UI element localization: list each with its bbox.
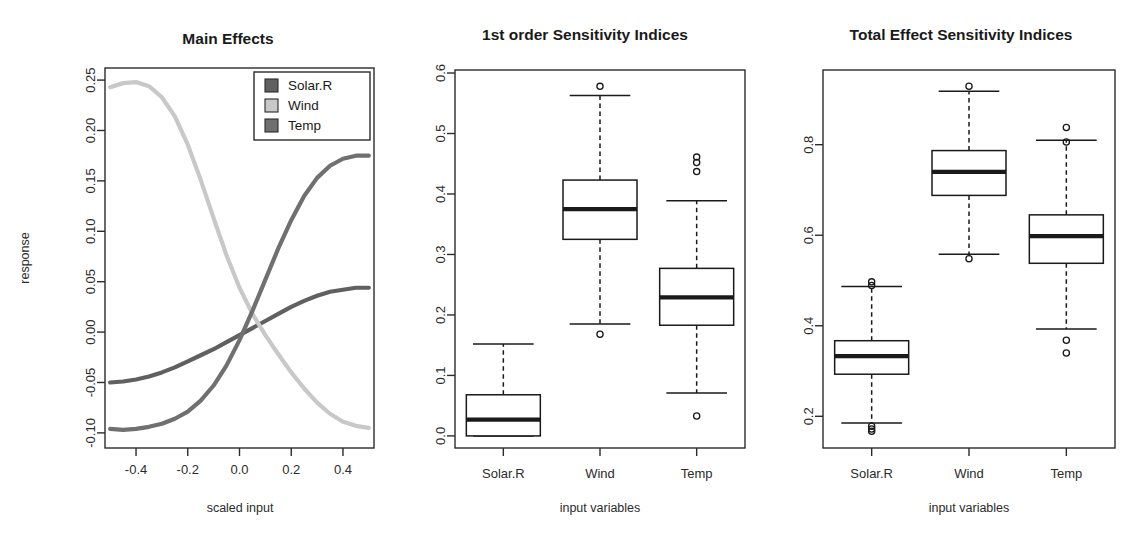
category-label: Temp bbox=[681, 466, 713, 481]
boxplot-wind bbox=[563, 83, 637, 337]
y-tick-label: 0.05 bbox=[84, 269, 99, 294]
outlier-point bbox=[694, 169, 700, 175]
y-tick-label: 0.00 bbox=[84, 319, 99, 344]
main-effects-plot: Main Effects -0.10-0.050.000.050.100.150… bbox=[0, 0, 390, 555]
y-tick-label: -0.10 bbox=[84, 418, 99, 448]
box-iqr bbox=[466, 395, 540, 436]
y-tick-label: 0.20 bbox=[84, 118, 99, 143]
category-labels: Solar.RWindTemp bbox=[850, 466, 1082, 481]
y-tick-label: 0.10 bbox=[84, 219, 99, 244]
category-label: Temp bbox=[1050, 466, 1082, 481]
boxplot-solar-r bbox=[835, 279, 909, 435]
legend-label-temp: Temp bbox=[288, 118, 321, 133]
category-label: Wind bbox=[954, 466, 984, 481]
panel-title: Main Effects bbox=[182, 30, 273, 47]
y-tick-label: 0.4 bbox=[802, 317, 817, 335]
legend-label-solar-r: Solar.R bbox=[288, 78, 333, 93]
panel-first-order-sensitivity: 1st order Sensitivity Indices 0.00.10.20… bbox=[390, 0, 761, 555]
legend-swatch-solar-r bbox=[265, 79, 278, 92]
outlier-point bbox=[1063, 350, 1069, 356]
total-effect-plot: Total Effect Sensitivity Indices 0.20.40… bbox=[761, 0, 1132, 555]
outlier-point bbox=[597, 83, 603, 89]
x-tick-label: 0.4 bbox=[334, 462, 352, 477]
x-tick-label: -0.4 bbox=[125, 462, 147, 477]
boxplot-group bbox=[466, 83, 733, 436]
legend-label-wind: Wind bbox=[288, 98, 319, 113]
panel-title: 1st order Sensitivity Indices bbox=[482, 26, 688, 43]
category-labels: Solar.RWindTemp bbox=[482, 466, 713, 481]
x-axis-ticks: -0.4-0.20.00.20.4 bbox=[125, 448, 352, 477]
y-tick-label: 0.2 bbox=[802, 407, 817, 425]
x-axis-label: input variables bbox=[929, 501, 1010, 515]
y-tick-label: 0.15 bbox=[84, 168, 99, 193]
outlier-point bbox=[694, 413, 700, 419]
y-tick-label: 0.6 bbox=[434, 64, 449, 82]
outlier-point bbox=[966, 256, 972, 262]
y-tick-label: -0.05 bbox=[84, 368, 99, 398]
y-axis-ticks: 0.00.10.20.30.40.50.6 bbox=[434, 64, 456, 445]
outlier-point bbox=[1063, 124, 1069, 130]
box-iqr bbox=[1029, 215, 1103, 263]
boxplot-temp bbox=[660, 154, 734, 419]
x-axis-label: scaled input bbox=[207, 501, 274, 515]
x-axis-ticks bbox=[872, 448, 1067, 456]
outlier-point bbox=[1063, 337, 1069, 343]
legend-swatch-wind bbox=[265, 99, 278, 112]
y-tick-label: 0.0 bbox=[434, 427, 449, 445]
y-axis-ticks: 0.20.40.60.8 bbox=[802, 136, 824, 426]
y-axis-label: response bbox=[18, 232, 32, 283]
y-tick-label: 0.5 bbox=[434, 124, 449, 142]
x-axis-ticks bbox=[503, 448, 696, 456]
legend: Solar.RWindTemp bbox=[254, 72, 370, 140]
x-tick-label: -0.2 bbox=[177, 462, 199, 477]
category-label: Wind bbox=[585, 466, 615, 481]
x-axis-label: input variables bbox=[560, 501, 641, 515]
y-tick-label: 0.4 bbox=[434, 185, 449, 203]
category-label: Solar.R bbox=[850, 466, 893, 481]
outlier-point bbox=[597, 331, 603, 337]
x-tick-label: 0.0 bbox=[230, 462, 248, 477]
boxplot-temp bbox=[1029, 124, 1103, 356]
y-tick-label: 0.3 bbox=[434, 245, 449, 263]
boxplot-wind bbox=[932, 83, 1006, 262]
first-order-plot: 1st order Sensitivity Indices 0.00.10.20… bbox=[390, 0, 761, 555]
boxplot-group bbox=[835, 83, 1104, 434]
y-tick-label: 0.8 bbox=[802, 136, 817, 154]
y-tick-label: 0.6 bbox=[802, 226, 817, 244]
y-tick-label: 0.25 bbox=[84, 67, 99, 92]
panel-title: Total Effect Sensitivity Indices bbox=[850, 26, 1073, 43]
legend-swatch-temp bbox=[265, 119, 278, 132]
x-tick-label: 0.2 bbox=[282, 462, 300, 477]
category-label: Solar.R bbox=[482, 466, 525, 481]
figure-canvas: Main Effects -0.10-0.050.000.050.100.150… bbox=[0, 0, 1132, 555]
panel-total-effect-sensitivity: Total Effect Sensitivity Indices 0.20.40… bbox=[761, 0, 1132, 555]
boxplot-solar-r bbox=[466, 344, 540, 436]
y-tick-label: 0.2 bbox=[434, 306, 449, 324]
y-axis-ticks: -0.10-0.050.000.050.100.150.200.25 bbox=[84, 67, 106, 447]
panel-main-effects: Main Effects -0.10-0.050.000.050.100.150… bbox=[0, 0, 390, 555]
outlier-point bbox=[966, 83, 972, 89]
y-tick-label: 0.1 bbox=[434, 366, 449, 384]
